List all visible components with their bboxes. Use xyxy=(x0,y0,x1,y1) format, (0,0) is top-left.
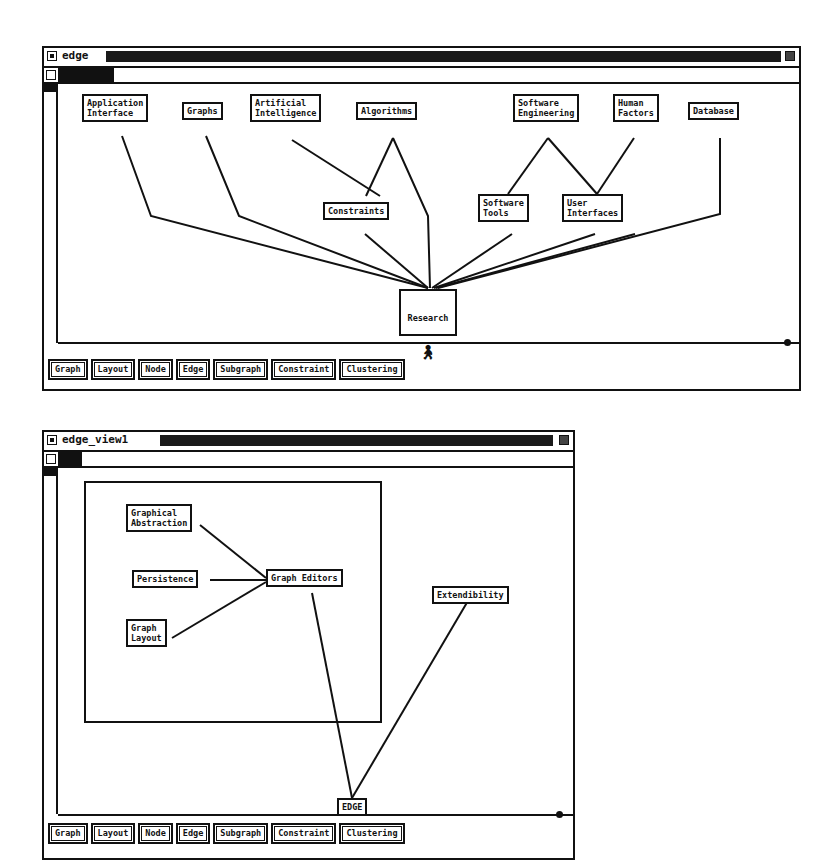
command-button-bar: Graph Layout Node Edge Subgraph Constrai… xyxy=(48,359,405,380)
constraint-button[interactable]: Constraint xyxy=(271,359,336,380)
node-button[interactable]: Node xyxy=(138,823,172,844)
window-title: edge xyxy=(62,49,89,63)
menu-line xyxy=(44,68,799,84)
close-box-icon[interactable] xyxy=(47,51,57,61)
graph-button[interactable]: Graph xyxy=(48,823,88,844)
graph-canvas[interactable]: Application Interface Graphs Artificial … xyxy=(60,84,799,342)
node-research[interactable]: Research 🚶︎ xyxy=(399,289,457,336)
title-bar[interactable]: edge xyxy=(44,48,799,68)
node-artificial-intelligence[interactable]: Artificial Intelligence xyxy=(250,94,321,122)
node-software-tools[interactable]: Software Tools xyxy=(478,194,529,222)
node-graph-layout[interactable]: Graph Layout xyxy=(126,619,167,647)
menu-square-icon[interactable] xyxy=(46,454,56,464)
menu-square-icon[interactable] xyxy=(46,70,56,80)
graph-button[interactable]: Graph xyxy=(48,359,88,380)
horizontal-scrollbar[interactable] xyxy=(58,814,573,816)
node-constraints[interactable]: Constraints xyxy=(323,202,389,220)
edge-button[interactable]: Edge xyxy=(176,359,210,380)
menu-block[interactable] xyxy=(58,68,114,82)
node-button[interactable]: Node xyxy=(138,359,172,380)
edge-button[interactable]: Edge xyxy=(176,823,210,844)
zoom-box-icon[interactable] xyxy=(785,51,795,61)
vertical-scrollbar[interactable] xyxy=(44,468,58,814)
layout-button[interactable]: Layout xyxy=(91,359,136,380)
node-graphical-abstraction[interactable]: Graphical Abstraction xyxy=(126,504,192,532)
title-drag-area[interactable] xyxy=(160,435,553,446)
node-persistence[interactable]: Persistence xyxy=(132,570,198,588)
node-algorithms[interactable]: Algorithms xyxy=(356,102,417,120)
scroll-handle[interactable] xyxy=(556,811,563,818)
vertical-scrollbar[interactable] xyxy=(44,84,58,343)
node-application-interface[interactable]: Application Interface xyxy=(82,94,148,122)
node-graph-editors[interactable]: Graph Editors xyxy=(266,569,343,587)
node-database[interactable]: Database xyxy=(688,102,739,120)
title-bar[interactable]: edge_view1 xyxy=(44,432,573,452)
graph-canvas[interactable]: Graphical Abstraction Persistence Graph … xyxy=(60,468,573,813)
node-human-factors[interactable]: Human Factors xyxy=(613,94,659,122)
horizontal-scrollbar[interactable] xyxy=(58,342,799,344)
edge-view1-window: edge_view1 Graphical Abstraction Persist… xyxy=(42,430,575,860)
person-icon: 🚶︎ xyxy=(404,343,452,361)
constraint-button[interactable]: Constraint xyxy=(271,823,336,844)
menu-line xyxy=(44,452,573,468)
node-software-engineering[interactable]: Software Engineering xyxy=(513,94,579,122)
window-title: edge_view1 xyxy=(62,433,128,447)
layout-button[interactable]: Layout xyxy=(91,823,136,844)
node-research-label: Research xyxy=(404,313,452,323)
edge-window: edge Applic xyxy=(42,46,801,391)
scroll-thumb[interactable] xyxy=(44,468,56,476)
title-drag-area[interactable] xyxy=(106,51,781,62)
node-user-interfaces[interactable]: User Interfaces xyxy=(562,194,623,222)
clustering-button[interactable]: Clustering xyxy=(339,823,404,844)
subgraph-button[interactable]: Subgraph xyxy=(213,359,268,380)
command-button-bar: Graph Layout Node Edge Subgraph Constrai… xyxy=(48,823,405,844)
close-box-icon[interactable] xyxy=(47,435,57,445)
zoom-box-icon[interactable] xyxy=(559,435,569,445)
scroll-thumb[interactable] xyxy=(44,84,56,92)
scroll-handle[interactable] xyxy=(784,339,791,346)
clustering-button[interactable]: Clustering xyxy=(339,359,404,380)
node-extendibility[interactable]: Extendibility xyxy=(432,586,509,604)
subgraph-button[interactable]: Subgraph xyxy=(213,823,268,844)
node-graphs[interactable]: Graphs xyxy=(182,102,223,120)
menu-block[interactable] xyxy=(58,452,82,466)
